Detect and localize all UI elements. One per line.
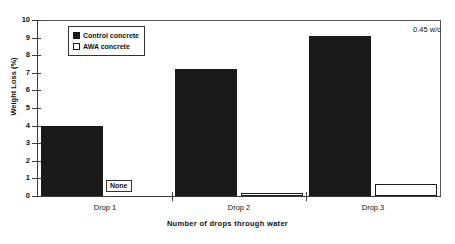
bar-awa-drop-3 [375, 184, 437, 196]
x-category-label-1: Drop 1 [94, 203, 117, 212]
legend-label-control: Control concrete [83, 32, 139, 39]
x-axis-line [37, 196, 441, 197]
y-axis-title: Weight Loss (%) [9, 42, 18, 132]
legend-item-awa-concrete: AWA concrete [73, 41, 139, 52]
bar-chart-figure: 012345678910 Weight Loss (%) Drop 1Drop … [0, 0, 455, 244]
bar-control-drop-2 [175, 69, 237, 196]
bar-control-drop-3 [309, 36, 371, 196]
y-tick-label-10: 10 [0, 16, 30, 24]
x-axis-title: Number of drops through water [0, 219, 455, 228]
y-tick-label-1: 1 [0, 174, 30, 182]
none-annotation-label: None [106, 180, 132, 192]
y-tick-label-9: 9 [0, 34, 30, 42]
bar-awa-drop-2 [241, 193, 303, 196]
water-cement-ratio-annotation: 0.45 w/c [413, 25, 441, 34]
bar-control-drop-1 [41, 126, 103, 196]
y-tick-label-2: 2 [0, 157, 30, 165]
y-tick-label-0: 0 [0, 192, 30, 200]
chart-legend: Control concrete AWA concrete [68, 26, 145, 56]
legend-item-control-concrete: Control concrete [73, 30, 139, 41]
x-category-label-3: Drop 3 [362, 203, 385, 212]
legend-swatch-awa-icon [73, 43, 80, 50]
y-tick-label-3: 3 [0, 139, 30, 147]
x-category-label-2: Drop 2 [228, 203, 251, 212]
legend-swatch-control-icon [73, 32, 80, 39]
legend-label-awa: AWA concrete [83, 43, 130, 50]
